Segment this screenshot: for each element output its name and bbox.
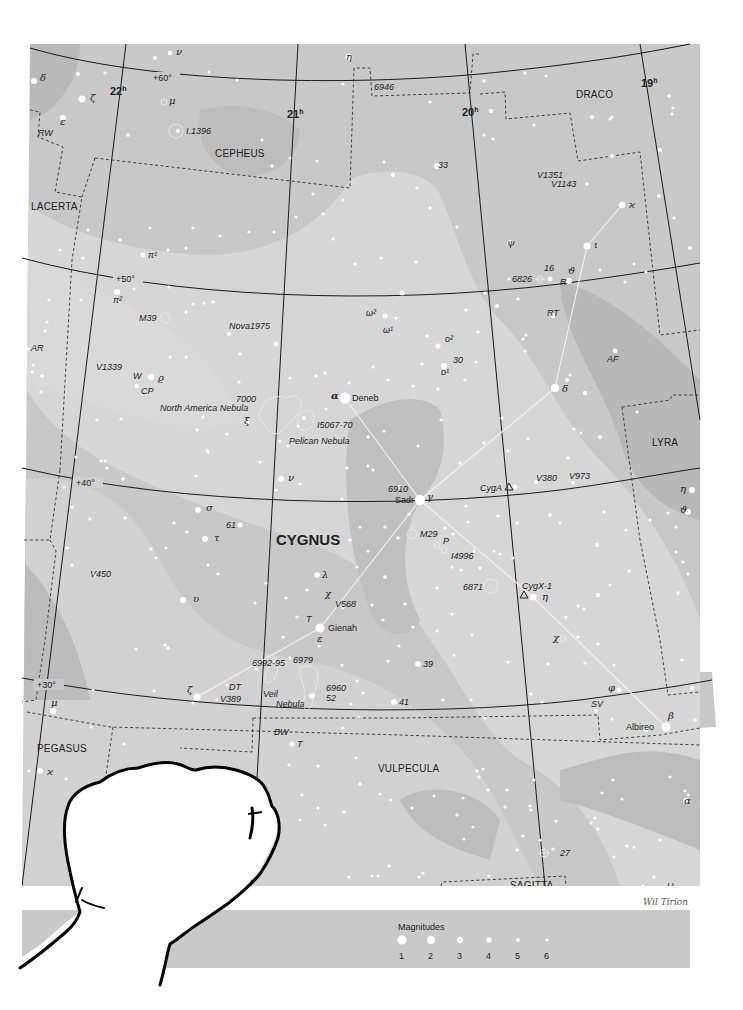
star-label: CygX-1 <box>522 581 552 591</box>
star-label: λ <box>321 569 328 580</box>
star-label: σ <box>206 502 214 513</box>
star-label: Pelican Nebula <box>289 436 350 446</box>
star-label: V568 <box>335 599 356 609</box>
constellation-name-pegasus: PEGASUS <box>37 743 87 754</box>
legend-star-dot <box>398 936 407 945</box>
star-label: AR <box>30 343 44 353</box>
star-label: M29 <box>420 529 438 539</box>
star-label: δ <box>562 383 568 394</box>
legend-star-dot <box>427 936 435 944</box>
star-label: ν <box>176 46 182 57</box>
star-label: 6946 <box>374 82 394 92</box>
star-label: V973 <box>569 471 590 481</box>
star-label: ω¹ <box>383 325 393 335</box>
dec-label-30: +30° <box>37 680 56 690</box>
dec-label-60: +60° <box>153 73 172 83</box>
star-label: Veil <box>263 689 279 699</box>
star-label: δ <box>40 72 46 83</box>
star-label: V389 <box>220 694 241 704</box>
constellation-name-vulpecula: VULPECULA <box>378 763 439 774</box>
star-label: 6979 <box>293 655 313 665</box>
star-label: η <box>542 591 548 602</box>
star-label: χ <box>552 632 560 643</box>
star-label: CP <box>141 386 154 396</box>
star-label: RW <box>38 128 54 138</box>
constellation-name-cepheus: CEPHEUS <box>215 148 265 159</box>
star-label: π¹ <box>148 250 157 260</box>
star-label: χ <box>324 588 332 599</box>
star-label: North America Nebula <box>160 403 248 413</box>
star-label: 16 <box>544 263 554 273</box>
star-label: τ <box>214 532 220 543</box>
legend-magnitude-label: 2 <box>428 951 433 961</box>
star-label: V1339 <box>96 362 122 372</box>
star-label: φ <box>608 682 615 693</box>
legend-magnitude-label: 6 <box>544 951 549 961</box>
legend-star-dot <box>486 937 491 942</box>
star-greek-epsilon: ε <box>317 633 322 644</box>
constellation-name-draco: DRACO <box>576 89 613 100</box>
star-label: ι <box>594 239 598 250</box>
star-label: V1143 <box>551 179 576 189</box>
legend-magnitude-label: 5 <box>515 951 520 961</box>
star-label-albireo: Albireo <box>626 722 654 732</box>
star-label: Nebula <box>276 699 305 709</box>
star-label: ο² <box>445 334 454 344</box>
star-label: Nova1975 <box>229 321 271 331</box>
star-label: π² <box>113 295 123 305</box>
star-label: R <box>560 277 567 287</box>
star-label: BW <box>274 727 290 737</box>
star-label: CygA <box>480 483 502 493</box>
star-greek-beta: β <box>667 710 674 721</box>
star-label: ο¹ <box>441 367 449 377</box>
star-label: I4996 <box>451 551 474 561</box>
star-label: I5067-70 <box>317 420 353 430</box>
star-label: 27 <box>559 848 571 858</box>
star-label-deneb: Deneb <box>352 393 379 403</box>
star-label: ν <box>288 472 294 483</box>
star-label: ξ <box>244 415 250 426</box>
star-label: 39 <box>423 659 433 669</box>
star-greek-alpha: α <box>331 390 339 401</box>
legend-star-dot <box>457 937 463 943</box>
star-label-gienah: Gienah <box>328 623 357 633</box>
constellation-name-cygnus: CYGNUS <box>276 531 340 548</box>
star-label: V380 <box>536 473 557 483</box>
star-label: υ <box>193 593 199 604</box>
star-label: ϰ <box>628 199 636 210</box>
star-label-sadr: Sadr <box>395 495 414 505</box>
legend-star-dot <box>546 939 549 942</box>
star-label: η <box>346 51 352 62</box>
star-label: 61 <box>226 520 236 530</box>
star-label: ω² <box>366 308 377 318</box>
star-label: ε <box>60 116 65 127</box>
star-label: 6826 <box>512 274 532 284</box>
star-label: ζ <box>90 92 96 103</box>
star-label: I.1396 <box>186 126 211 136</box>
legend-magnitude-label: 3 <box>457 951 462 961</box>
star-label: 33 <box>438 160 448 170</box>
star-label: 6992-95 <box>252 658 286 668</box>
star-label: 52 <box>326 693 336 703</box>
star-label: 6871 <box>463 582 483 592</box>
star-label: SV <box>591 699 604 709</box>
credit-signature: Wil Tirion <box>643 897 688 907</box>
legend-star-dot <box>516 938 520 942</box>
star-label: α <box>684 795 691 806</box>
dec-label-40: +40° <box>76 478 95 488</box>
star-label: ϑ <box>568 265 575 276</box>
star-label: η <box>680 483 686 494</box>
star-label: ϑ <box>680 504 687 515</box>
dec-label-50: +50° <box>116 274 135 284</box>
star-label: ψ <box>507 237 515 248</box>
star-label: μ <box>51 697 58 708</box>
star-label: ζ <box>187 684 193 695</box>
star-label: 6910 <box>388 484 408 494</box>
legend-magnitude-label: 1 <box>399 951 404 961</box>
legend-title: Magnitudes <box>398 922 445 932</box>
star-greek-gamma: γ <box>427 491 433 502</box>
star-label: ϱ <box>158 372 164 383</box>
star-label: ϰ <box>46 766 54 777</box>
star-label: AF <box>606 354 619 364</box>
star-label: RT <box>547 308 560 318</box>
